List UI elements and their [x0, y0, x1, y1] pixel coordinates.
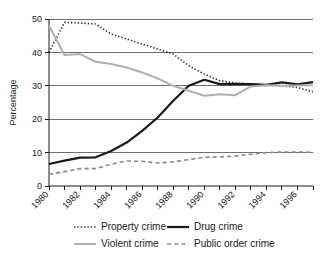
series-line-property-crime — [49, 22, 313, 91]
legend-item-drug-crime: Drug crime — [167, 221, 243, 232]
y-tick-label-0: 0 — [37, 181, 42, 191]
y-tick-label-30: 30 — [32, 81, 42, 91]
x-tick-label-1996: 1996 — [278, 189, 299, 210]
y-tick-label-50: 50 — [32, 14, 42, 24]
legend-label-violent-crime: Violent crime — [101, 238, 159, 249]
x-axis-tick-group — [49, 186, 313, 190]
x-tick-label-1992: 1992 — [216, 189, 237, 210]
legend-item-public-order-crime: Public order crime — [167, 238, 275, 249]
y-axis-tick-group — [45, 19, 49, 186]
legend-label-public-order-crime: Public order crime — [194, 238, 275, 249]
y-tick-label-40: 40 — [32, 48, 42, 58]
x-tick-label-1980: 1980 — [29, 189, 50, 210]
y-axis-title: Percentage — [8, 79, 18, 125]
legend-label-property-crime: Property crime — [101, 221, 166, 232]
series-line-drug-crime — [49, 80, 313, 164]
x-tick-label-1990: 1990 — [184, 189, 205, 210]
x-axis-label-group: 198019821984198619881990199219941996 — [29, 189, 299, 210]
series-line-public-order-crime — [49, 152, 313, 174]
legend-item-property-crime: Property crime — [74, 221, 166, 232]
legend-item-violent-crime: Violent crime — [74, 238, 159, 249]
y-tick-label-20: 20 — [32, 114, 42, 124]
x-tick-label-1982: 1982 — [60, 189, 81, 210]
line-chart: 01020304050 1980198219841986198819901992… — [0, 0, 329, 261]
x-tick-label-1994: 1994 — [247, 189, 268, 210]
x-tick-label-1984: 1984 — [91, 189, 112, 210]
y-tick-label-10: 10 — [32, 148, 42, 158]
chart-legend: Property crimeDrug crimeViolent crimePub… — [74, 221, 275, 249]
chart-container: 01020304050 1980198219841986198819901992… — [0, 0, 329, 261]
y-axis-label-group: 01020304050 — [32, 14, 42, 191]
legend-label-drug-crime: Drug crime — [194, 221, 243, 232]
x-tick-label-1986: 1986 — [122, 189, 143, 210]
series-group — [49, 22, 313, 174]
x-tick-label-1988: 1988 — [153, 189, 174, 210]
